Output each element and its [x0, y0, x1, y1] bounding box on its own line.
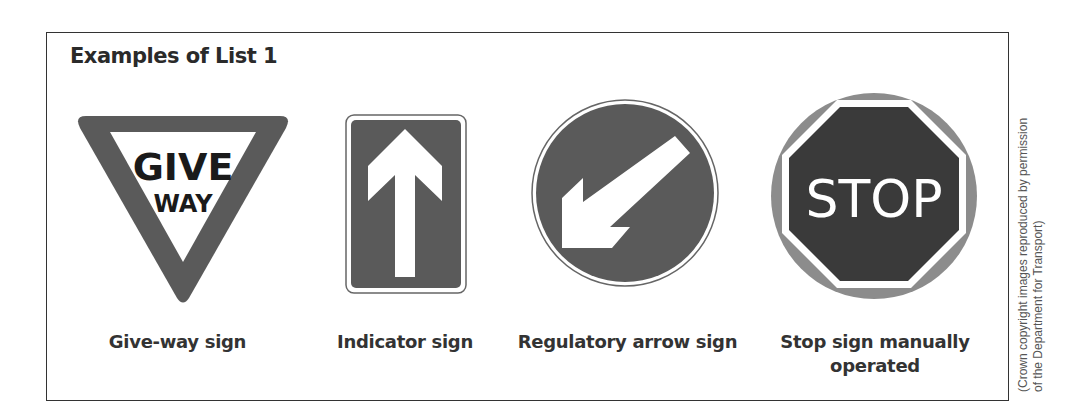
give-way-caption: Give-way sign: [90, 330, 265, 354]
credit-line2: of the Department for Transport): [1031, 118, 1046, 392]
heading: Examples of List 1: [70, 44, 277, 68]
copyright-credit: (Crown copyright images reproduced by pe…: [1016, 118, 1046, 392]
stop-sign-icon: STOP: [769, 91, 979, 301]
stop-caption: Stop sign manually operated: [765, 330, 985, 378]
indicator-caption: Indicator sign: [325, 330, 485, 354]
stop-caption-line1: Stop sign manually: [765, 330, 985, 354]
give-way-sign-icon: GIVE WAY: [72, 112, 294, 308]
indicator-sign-icon: [345, 114, 469, 296]
regulatory-arrow-sign-icon: [530, 98, 720, 288]
credit-line1: (Crown copyright images reproduced by pe…: [1016, 118, 1031, 392]
way-text: WAY: [153, 190, 213, 218]
stop-caption-line2: operated: [765, 354, 985, 378]
give-way-text: GIVE: [133, 145, 234, 189]
stop-text: STOP: [805, 169, 942, 229]
regulatory-arrow-caption: Regulatory arrow sign: [500, 330, 755, 354]
